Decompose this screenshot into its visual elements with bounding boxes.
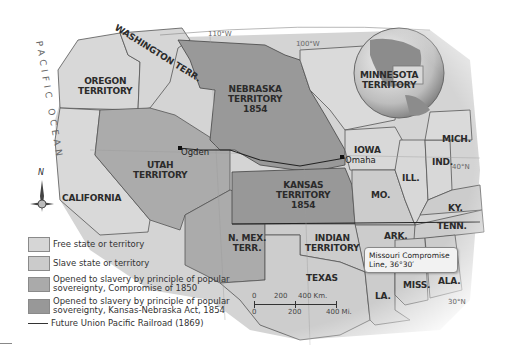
city-omaha: Omaha (345, 155, 376, 165)
label-illinois: ILL. (402, 173, 419, 183)
label-nebraska: NEBRASKA TERRITORY 1854 (228, 84, 282, 114)
lat-30-label: 30°N (448, 298, 466, 306)
label-utah: UTAH TERRITORY (133, 160, 187, 180)
map-legend: Free state or territory Slave state or t… (28, 237, 288, 332)
label-indian: INDIAN TERRITORY (305, 233, 359, 253)
label-minnesota: MINNESOTA TERRITORY (360, 70, 418, 90)
label-arkansas: ARK. (384, 231, 408, 241)
lon-100-label: 100°W (296, 40, 320, 48)
lat-40-label: 40°N (452, 163, 470, 171)
label-tennessee: TENN. (437, 221, 467, 231)
missouri-compromise-callout: Missouri Compromise Line, 36°30′ (364, 247, 458, 273)
scale-mi-200: 200 (288, 308, 301, 316)
legend-item-slave: Slave state or territory (28, 256, 288, 271)
label-alabama: ALA. (438, 276, 460, 286)
divider-line (0, 343, 12, 344)
legend-item-compromise-1850: Opened to slavery by principle of popula… (28, 275, 288, 293)
swatch-free (28, 237, 50, 252)
omaha-marker (340, 155, 344, 159)
label-louisiana: LA. (375, 291, 391, 301)
label-mississippi: MISS. (403, 280, 430, 290)
label-kansas: KANSAS TERRITORY 1854 (276, 180, 330, 210)
label-iowa: IOWA (354, 145, 381, 155)
scale-mi-400: 400 Mi. (326, 308, 352, 316)
label-indiana: IND. (432, 157, 453, 167)
legend-item-railroad: Future Union Pacific Railroad (1869) (28, 319, 288, 328)
map-container: PACIFIC OCEAN 110°W 100°W 40°N 30°N N WA… (0, 0, 505, 359)
legend-item-free: Free state or territory (28, 237, 288, 252)
label-texas: TEXAS (306, 273, 338, 283)
swatch-compromise-1850 (28, 277, 50, 292)
label-oregon: OREGON TERRITORY (78, 76, 132, 96)
swatch-kansas-nebraska (28, 299, 50, 314)
label-michigan: MICH. (442, 134, 471, 144)
compass-north: N (38, 168, 44, 177)
railroad-line-sample (28, 323, 48, 324)
lon-110-label: 110°W (208, 30, 232, 38)
legend-item-kansas-nebraska: Opened to slavery by principle of popula… (28, 297, 288, 315)
city-ogden: Ogden (181, 147, 209, 157)
swatch-slave (28, 256, 50, 271)
label-kentucky: KY. (448, 203, 463, 213)
label-california: CALIFORNIA (62, 193, 121, 203)
scale-km-400: 400 Km. (298, 292, 327, 300)
label-missouri: MO. (371, 190, 390, 200)
